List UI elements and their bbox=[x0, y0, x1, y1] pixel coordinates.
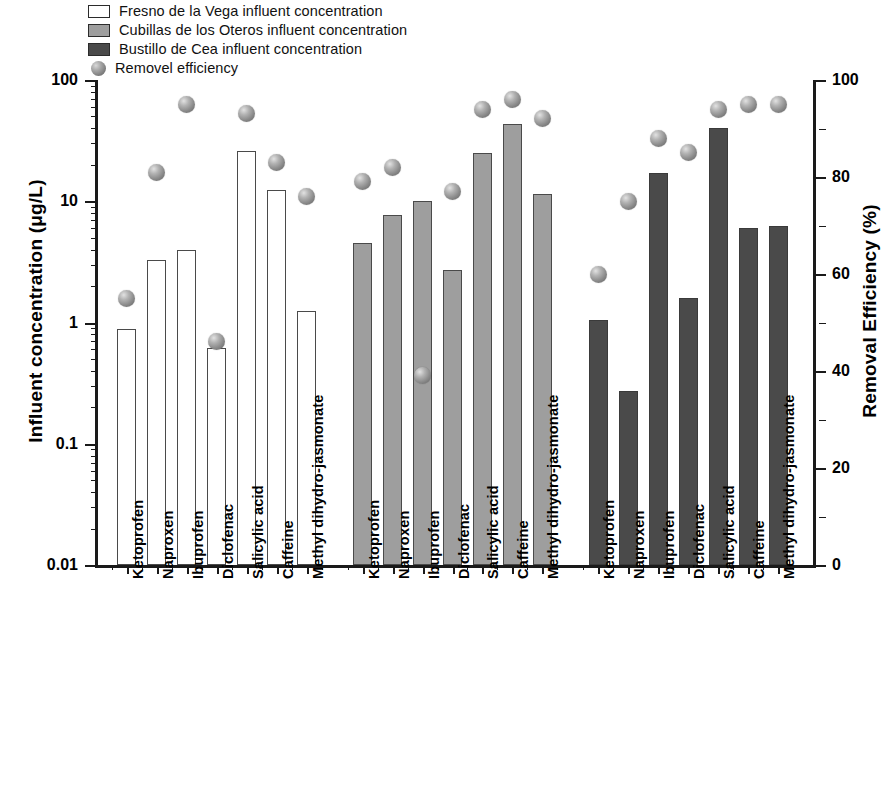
y-axis-right-tick-label: 100 bbox=[832, 71, 859, 89]
y-axis-left-minor-tick bbox=[91, 341, 98, 342]
x-axis-tick bbox=[127, 565, 129, 574]
y-axis-right-tick-label: 0 bbox=[832, 556, 841, 574]
y-axis-left-minor-tick bbox=[91, 480, 98, 481]
plot-inner bbox=[98, 80, 813, 565]
y-axis-left-minor-tick bbox=[91, 128, 98, 129]
removal-efficiency-marker bbox=[740, 96, 757, 113]
x-axis-tick bbox=[363, 565, 365, 574]
y-axis-left-minor-tick bbox=[91, 407, 98, 408]
legend-item: Fresno de la Vega influent concentration bbox=[88, 2, 488, 20]
legend-item-label: Removel efficiency bbox=[115, 60, 238, 76]
x-axis-tick-label: Methyl dihydro-jasmonate bbox=[781, 395, 797, 579]
x-axis-tick-label: Ketoprofen bbox=[601, 500, 617, 579]
y-axis-right-tick bbox=[813, 80, 826, 82]
legend-swatch-darkgray bbox=[88, 43, 110, 56]
y-axis-left-minor-tick bbox=[91, 359, 98, 360]
legend-item-label: Cubillas de los Oteros influent concentr… bbox=[119, 22, 407, 38]
chart-legend: Fresno de la Vega influent concentration… bbox=[88, 2, 488, 78]
y-axis-right-minor-tick bbox=[819, 517, 826, 518]
y-axis-left-minor-tick bbox=[91, 265, 98, 266]
y-axis-right-tick bbox=[813, 371, 826, 373]
x-axis-tick-label: Naproxen bbox=[160, 511, 176, 579]
x-axis-tick bbox=[423, 565, 425, 574]
removal-efficiency-marker bbox=[474, 101, 491, 118]
y-axis-left-minor-tick bbox=[91, 165, 98, 166]
removal-efficiency-marker bbox=[354, 173, 371, 190]
y-axis-left-tick bbox=[85, 80, 98, 82]
y-axis-left-tick bbox=[85, 201, 98, 203]
legend-item: Cubillas de los Oteros influent concentr… bbox=[88, 21, 488, 39]
x-axis-tick bbox=[658, 565, 660, 574]
bar bbox=[739, 228, 758, 565]
legend-item-label: Bustillo de Cea influent concentration bbox=[119, 41, 362, 57]
removal-efficiency-marker bbox=[770, 96, 787, 113]
x-axis-tick-label: Methyl dihydro-jasmonate bbox=[310, 395, 326, 579]
y-axis-right-tick bbox=[813, 565, 826, 567]
bar bbox=[649, 173, 668, 565]
y-axis-left-minor-tick bbox=[91, 371, 98, 372]
y-axis-right-tick-label: 80 bbox=[832, 168, 850, 186]
y-axis-left-minor-tick bbox=[91, 471, 98, 472]
x-axis-tick bbox=[157, 565, 159, 574]
plot-area bbox=[95, 80, 816, 568]
removal-efficiency-marker bbox=[620, 193, 637, 210]
y-axis-right-tick bbox=[813, 274, 826, 276]
removal-efficiency-marker bbox=[444, 183, 461, 200]
y-axis-left-minor-tick bbox=[91, 456, 98, 457]
bar bbox=[267, 190, 286, 566]
y-axis-right-tick bbox=[813, 177, 826, 179]
y-axis-left-minor-tick bbox=[91, 328, 98, 329]
y-axis-left-minor-tick bbox=[91, 107, 98, 108]
legend-swatch-gray bbox=[88, 24, 110, 37]
y-axis-right-minor-tick bbox=[819, 226, 826, 227]
y-axis-left-tick bbox=[85, 444, 98, 446]
x-axis-tick bbox=[277, 565, 279, 574]
removal-efficiency-marker bbox=[650, 130, 667, 147]
y-axis-right-minor-tick bbox=[819, 323, 826, 324]
x-axis-tick-label: Methyl dihydro-jasmonate bbox=[545, 395, 561, 579]
x-axis-tick-label: Ketoprofen bbox=[366, 500, 382, 579]
legend-item-label: Fresno de la Vega influent concentration bbox=[119, 3, 383, 19]
x-axis-tick-label: Salicylic acid bbox=[485, 485, 501, 579]
legend-item: Bustillo de Cea influent concentration bbox=[88, 40, 488, 58]
x-axis-tick-label: Naproxen bbox=[396, 511, 412, 579]
x-axis-tick-label: Caffeine bbox=[515, 520, 531, 579]
y-axis-left-minor-tick bbox=[91, 449, 98, 450]
bar bbox=[503, 124, 522, 565]
removal-efficiency-marker bbox=[118, 290, 135, 307]
y-axis-left-minor-tick bbox=[91, 228, 98, 229]
x-axis-minor-tick bbox=[348, 565, 349, 570]
y-axis-left-minor-tick bbox=[91, 238, 98, 239]
removal-efficiency-marker bbox=[590, 266, 607, 283]
y-axis-left-minor-tick bbox=[91, 207, 98, 208]
x-axis-minor-tick bbox=[112, 565, 113, 570]
x-axis-tick-label: Ibuprofen bbox=[190, 510, 206, 579]
y-axis-left-tick-label: 0.01 bbox=[0, 556, 78, 574]
x-axis-tick bbox=[748, 565, 750, 574]
y-axis-left-minor-tick bbox=[91, 220, 98, 221]
x-axis-tick bbox=[393, 565, 395, 574]
y-axis-left-minor-tick bbox=[91, 334, 98, 335]
y-axis-left-minor-tick bbox=[91, 92, 98, 93]
y-axis-left-tick-label: 10 bbox=[0, 192, 78, 210]
x-axis-tick-label: Naproxen bbox=[631, 511, 647, 579]
y-axis-left-minor-tick bbox=[91, 386, 98, 387]
y-axis-left-minor-tick bbox=[91, 492, 98, 493]
x-axis-tick-label: Diclofenac bbox=[220, 504, 236, 579]
y-axis-right-title: Removal Efficiency (%) bbox=[859, 141, 881, 481]
removal-efficiency-marker bbox=[298, 188, 315, 205]
y-axis-left-minor-tick bbox=[91, 116, 98, 117]
y-axis-right-tick-label: 40 bbox=[832, 362, 850, 380]
y-axis-right-tick bbox=[813, 468, 826, 470]
y-axis-left-minor-tick bbox=[91, 250, 98, 251]
legend-item: Removel efficiency bbox=[88, 59, 488, 77]
removal-efficiency-marker bbox=[534, 110, 551, 127]
y-axis-left-minor-tick bbox=[91, 143, 98, 144]
y-axis-left-tick-label: 1 bbox=[0, 314, 78, 332]
removal-efficiency-marker bbox=[268, 154, 285, 171]
y-axis-left-minor-tick bbox=[91, 349, 98, 350]
y-axis-left-tick-label: 100 bbox=[0, 71, 78, 89]
x-axis-tick bbox=[453, 565, 455, 574]
x-axis-tick-label: Diclofenac bbox=[691, 504, 707, 579]
